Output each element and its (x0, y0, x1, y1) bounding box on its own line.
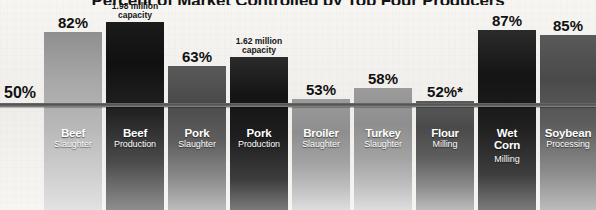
bar-label-subtitle: Slaughter (44, 140, 102, 149)
bar[interactable]: FlourMilling (416, 101, 474, 210)
bar-caption: SoybeanProcessing (540, 127, 596, 150)
bar-value-label: 82% (58, 15, 88, 30)
bar-label-subtitle: Production (106, 140, 164, 149)
bar-label-subtitle: Slaughter (168, 140, 226, 149)
bar-group: WetCornMilling87% (478, 30, 536, 210)
bar-group: SoybeanProcessing85% (540, 35, 596, 210)
bar-label-name: Beef (44, 127, 102, 139)
bar-label-subtitle: Milling (416, 140, 474, 149)
bar-label-name: Wet (478, 127, 536, 139)
bar-group: BroilerSlaughter53% (292, 99, 350, 210)
reference-line-50-percent (0, 103, 596, 107)
bar-caption: PorkSlaughter (168, 127, 226, 150)
chart-root: Percent of Market Controlled by Top Four… (0, 0, 596, 210)
bar-caption: FlourMilling (416, 127, 474, 150)
bar-group: BeefProduction1.98 millioncapacity (106, 22, 164, 210)
bar-caption: BeefProduction (106, 127, 164, 150)
bar[interactable]: PorkSlaughter (168, 66, 226, 210)
bar-label-name: Flour (416, 127, 474, 139)
bar-value-label: 87% (492, 13, 522, 28)
bar-group: PorkSlaughter63% (168, 66, 226, 210)
bar-caption: PorkProduction (230, 127, 288, 150)
bar-group: FlourMilling52%* (416, 101, 474, 210)
bar-label-name: Beef (106, 127, 164, 139)
bar[interactable]: PorkProduction (230, 57, 288, 210)
bar-group: PorkProduction1.62 millioncapacity (230, 57, 288, 210)
bar-value-label: 1.98 millioncapacity (112, 2, 158, 20)
bar-caption: BeefSlaughter (44, 127, 102, 150)
bar-label-name: Pork (230, 127, 288, 139)
bar-value-label: 58% (368, 71, 398, 86)
bar-label-name-line2: Corn (478, 139, 536, 151)
bar[interactable]: BeefSlaughter (44, 32, 102, 210)
bar[interactable]: SoybeanProcessing (540, 35, 596, 210)
bar-label-subtitle: Slaughter (292, 140, 350, 149)
bar-value-label: 63% (182, 49, 212, 64)
bar-label-name: Pork (168, 127, 226, 139)
reference-line-label: 50% (4, 85, 36, 101)
bar-value-label: 52%* (427, 84, 463, 99)
bar-value-label: 53% (306, 82, 336, 97)
bar-value-label: 85% (553, 18, 583, 33)
bar-caption: WetCornMilling (478, 127, 536, 165)
bar-label-subtitle: Production (230, 140, 288, 149)
bar[interactable]: BeefProduction (106, 22, 164, 210)
bar-caption: TurkeySlaughter (354, 127, 412, 150)
bar[interactable]: WetCornMilling (478, 30, 536, 210)
bar-label-subtitle: Milling (478, 155, 536, 164)
bar-label-subtitle: Slaughter (354, 140, 412, 149)
bar-label-name: Turkey (354, 127, 412, 139)
bar-label-name: Broiler (292, 127, 350, 139)
bar-label-name: Soybean (540, 127, 596, 139)
bar-value-label: 1.62 millioncapacity (236, 37, 282, 55)
bar-label-subtitle: Processing (540, 140, 596, 149)
bar-group: BeefSlaughter82% (44, 32, 102, 210)
bar-caption: BroilerSlaughter (292, 127, 350, 150)
bar[interactable]: BroilerSlaughter (292, 99, 350, 210)
